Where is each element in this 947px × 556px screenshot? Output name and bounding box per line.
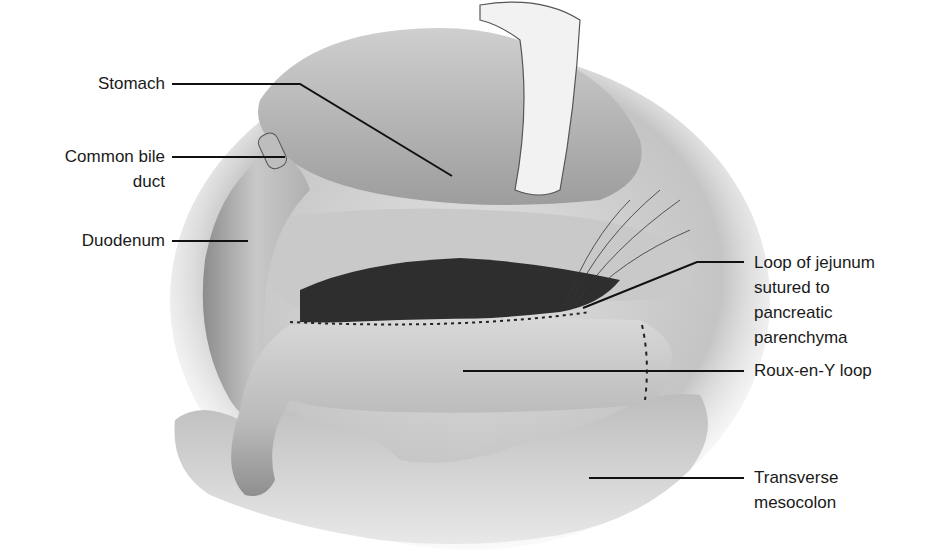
label-roux-en-y-loop: Roux-en-Y loop — [754, 360, 872, 381]
label-jejunum-line3: pancreatic — [754, 302, 832, 323]
label-stomach: Stomach — [60, 73, 165, 94]
label-common-bile-duct-line2: duct — [20, 171, 165, 192]
label-jejunum-line4: parenchyma — [754, 327, 848, 348]
label-jejunum-line2: sutured to — [754, 277, 830, 298]
label-jejunum-line1: Loop of jejunum — [754, 252, 875, 273]
label-mesocolon-line1: Transverse — [754, 467, 838, 488]
label-mesocolon-line2: mesocolon — [754, 492, 836, 513]
label-common-bile-duct-line1: Common bile — [20, 146, 165, 167]
label-duodenum: Duodenum — [20, 230, 165, 251]
